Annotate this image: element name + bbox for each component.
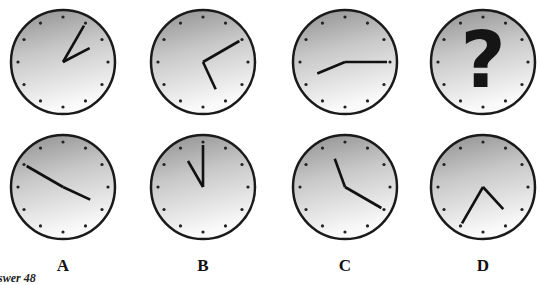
hour-marker <box>201 230 204 233</box>
hour-marker <box>156 185 159 188</box>
hour-marker <box>224 146 227 149</box>
hour-marker <box>343 105 346 108</box>
hour-marker <box>366 21 369 24</box>
clock-puzzle: ? <box>0 0 541 285</box>
hour-marker <box>22 208 25 211</box>
hour-marker <box>343 230 346 233</box>
figure-caption: swer 48 <box>0 271 36 285</box>
hour-marker <box>436 60 439 63</box>
hour-marker <box>343 140 346 143</box>
hour-marker <box>504 224 507 227</box>
hour-marker <box>224 224 227 227</box>
hour-marker <box>162 208 165 211</box>
hour-marker <box>298 185 301 188</box>
column-label-b: B <box>197 256 208 276</box>
hour-marker <box>442 38 445 41</box>
hour-marker <box>201 105 204 108</box>
hour-marker <box>22 83 25 86</box>
column-label-c: C <box>339 256 351 276</box>
clock-top-d: ? <box>431 10 535 114</box>
hour-marker <box>39 224 42 227</box>
hour-marker <box>388 60 391 63</box>
hour-marker <box>179 99 182 102</box>
hour-marker <box>106 60 109 63</box>
column-label-d: D <box>477 256 489 276</box>
hour-marker <box>240 83 243 86</box>
hour-marker <box>201 15 204 18</box>
question-mark-icon: ? <box>460 15 505 105</box>
hour-marker <box>22 163 25 166</box>
hour-marker <box>366 146 369 149</box>
hour-marker <box>382 83 385 86</box>
hour-marker <box>382 163 385 166</box>
hour-marker <box>179 146 182 149</box>
hour-marker <box>321 224 324 227</box>
hour-marker <box>442 83 445 86</box>
hour-marker <box>388 185 391 188</box>
hour-marker <box>481 105 484 108</box>
hour-marker <box>84 224 87 227</box>
hour-marker <box>39 21 42 24</box>
hour-marker <box>61 105 64 108</box>
hour-marker <box>61 15 64 18</box>
hour-marker <box>246 185 249 188</box>
hour-marker <box>343 15 346 18</box>
clock-bottom-a <box>11 135 115 239</box>
column-label-a: A <box>57 256 69 276</box>
clock-top-b <box>151 10 255 114</box>
hour-marker <box>162 38 165 41</box>
hour-marker <box>16 185 19 188</box>
hour-marker <box>481 230 484 233</box>
hour-marker <box>382 208 385 211</box>
hour-marker <box>459 224 462 227</box>
hour-marker <box>481 140 484 143</box>
hour-marker <box>526 60 529 63</box>
hour-marker <box>459 146 462 149</box>
hour-marker <box>246 60 249 63</box>
hour-marker <box>201 140 204 143</box>
hour-marker <box>366 224 369 227</box>
hour-marker <box>321 99 324 102</box>
hour-marker <box>520 83 523 86</box>
hour-marker <box>162 163 165 166</box>
hour-marker <box>366 99 369 102</box>
hour-marker <box>100 163 103 166</box>
hour-marker <box>61 230 64 233</box>
hour-marker <box>22 38 25 41</box>
hour-marker <box>100 208 103 211</box>
hour-marker <box>84 99 87 102</box>
hour-marker <box>179 21 182 24</box>
hour-marker <box>100 38 103 41</box>
hour-marker <box>304 83 307 86</box>
hour-marker <box>84 146 87 149</box>
hour-marker <box>39 146 42 149</box>
hour-marker <box>321 146 324 149</box>
hour-marker <box>442 163 445 166</box>
hour-marker <box>520 163 523 166</box>
hour-marker <box>304 208 307 211</box>
hour-marker <box>304 38 307 41</box>
hour-marker <box>240 163 243 166</box>
hour-marker <box>436 185 439 188</box>
hour-marker <box>382 38 385 41</box>
hour-marker <box>100 83 103 86</box>
hour-marker <box>61 140 64 143</box>
hour-marker <box>39 99 42 102</box>
hour-marker <box>240 38 243 41</box>
clock-top-a <box>11 10 115 114</box>
hour-marker <box>442 208 445 211</box>
hour-marker <box>504 146 507 149</box>
hour-marker <box>162 83 165 86</box>
hour-marker <box>526 185 529 188</box>
hour-marker <box>298 60 301 63</box>
hour-marker <box>16 60 19 63</box>
hour-marker <box>84 21 87 24</box>
hour-marker <box>520 38 523 41</box>
hour-marker <box>106 185 109 188</box>
clock-top-c <box>293 10 397 114</box>
hour-marker <box>156 60 159 63</box>
clock-bottom-d <box>431 135 535 239</box>
hour-marker <box>304 163 307 166</box>
clock-bottom-c <box>293 135 397 239</box>
hour-marker <box>224 99 227 102</box>
